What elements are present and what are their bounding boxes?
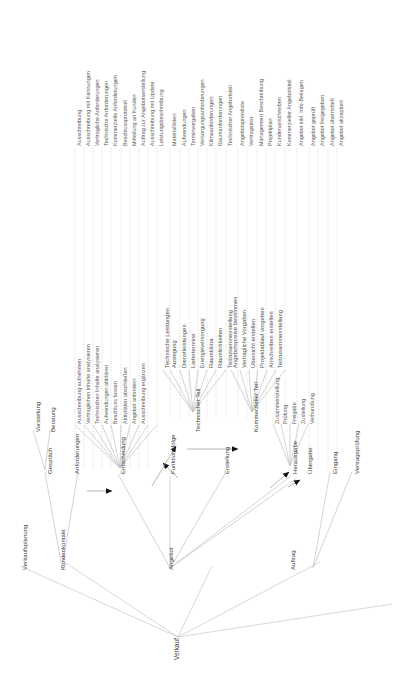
result-label-9: Leistungsbeschreibung (159, 90, 164, 147)
node-vertragspruefung: Vertragsprüfung (354, 431, 360, 474)
node-entscheidung: Entscheidung (120, 437, 126, 474)
sequence-arrows (87, 446, 300, 491)
activity-herausgabe-1: Prüfung (283, 405, 288, 424)
node-beratung: Beratung (50, 407, 56, 432)
activity-kommerzieller_teil-0: Angebotspreise bestimmen (233, 297, 239, 368)
activity-entscheidung-0: Ausschreibung aufnehmen (77, 359, 82, 424)
activity-herausgabe-0: Zusammenstellung (275, 378, 280, 424)
node-funktionsfolge: Funktionsfolge (170, 434, 176, 474)
result-label-14: Klimaanforderungen (209, 97, 214, 146)
activity-technischer_teil-0: Technische Leistungen (165, 308, 171, 368)
activity-technischer_teil-3: Liefertermine (191, 334, 197, 368)
result-label-25: Angebot freigegeben (320, 95, 325, 146)
edges-auftrag-children (313, 472, 352, 568)
result-label-26: Angebot übermittelt (330, 98, 335, 146)
activity-technischer_teil-5: Raumklima (209, 339, 215, 368)
result-label-3: Technische Anforderungen (104, 81, 109, 146)
activity-entscheidung-3: Aufwendungen abklären (104, 365, 109, 424)
activity-kommerzieller_teil-2: Übersicht erstellen (251, 319, 257, 368)
activity-kommerzieller_teil-1: Vertragliche Vorgaben (242, 310, 248, 368)
diagram-canvas: AusschreibungAusschreibung mit Kennungen… (0, 0, 393, 681)
result-label-22: Kommerzieller Angebotsteil (287, 79, 292, 146)
activity-kommerzieller_teil-4: Anschreiben erstellen (269, 311, 275, 368)
node-kommerzieller_teil: Kommerzieller Teil (253, 382, 259, 432)
result-label-1: Ausschreibung mit Kennungen (86, 71, 91, 146)
activity-entscheidung-5: Aktivitäten abschließen (123, 367, 128, 424)
node-gespraech: Gespräch (47, 448, 53, 474)
result-label-4: Kommerzielle Anforderungen (113, 75, 118, 146)
node-angebot: Angebot (168, 547, 174, 570)
result-label-24: Angebot geprüft (311, 107, 316, 146)
node-erstellung: Erstellung (224, 447, 230, 474)
result-label-18: Vertragstext (249, 117, 254, 146)
result-label-21: Kundenanschreiben (277, 97, 282, 146)
activity-technischer_teil-6: Räumlichkeiten (218, 328, 224, 368)
activity-technischer_teil-4: Energieversorgung (200, 318, 206, 368)
activity-herausgabe-2: Freigabe (292, 402, 297, 424)
result-label-27: Angebot akzeptiert (339, 100, 344, 146)
result-label-0: Ausschreibung (77, 110, 82, 146)
result-label-12: Terminvorgaben (191, 107, 196, 146)
result-label-5: Beschlussprotokoll (123, 100, 128, 146)
result-label-11: Aufwendungen (182, 109, 187, 146)
node-herausgabe: Herausgabe (292, 441, 298, 474)
node-auftrag: Auftrag (290, 550, 296, 570)
node-eingang: Eingang (332, 452, 338, 474)
result-label-7: Auftrag zur Angebotserstellung (141, 71, 146, 146)
result-label-6: Mitteilung an Kunden (132, 94, 137, 146)
result-label-23: Angebot inkl. Info-Beilagen (299, 80, 304, 146)
activity-entscheidung-1: Vertraglichen Inhalte analysieren (86, 344, 91, 424)
activity-kommerzieller_teil-3: Projektablauf vorgeben (260, 307, 266, 368)
activity-herausgabe-4: Verhandlung (310, 393, 315, 424)
node-uebergabe: Übergabe (307, 447, 313, 474)
activity-entscheidung-4: Beschluss fassen (113, 381, 118, 424)
activity-entscheidung-2: Technischen Inhalte analysieren (95, 346, 100, 424)
activity-technischer_teil-1: Auslegung (172, 340, 178, 368)
node-technischer_teil: Technischer Teil (195, 389, 201, 432)
result-label-16: Technischer Angebotsteil (228, 85, 233, 146)
result-label-8: Ausschreibung mit Update (150, 82, 155, 146)
result-label-2: Vertragliche Anforderungen (95, 79, 100, 146)
result-label-19: Management Beschreibung (259, 79, 264, 146)
result-label-13: Versorgungsanforderungen (200, 79, 205, 146)
activity-technischer_teil-2: Dienstleistungen (182, 324, 188, 368)
node-kundenkontakt: Kundenkontakt (60, 529, 66, 570)
result-label-15: Raumanforderungen (218, 96, 223, 146)
node-root-verkauf: Verkauf (174, 638, 180, 660)
edges-herausgabe-activities (273, 424, 308, 466)
activity-entscheidung-6: Angebot anfordern (132, 378, 137, 424)
node-anforderungen: Anforderungen (74, 434, 80, 474)
edges-entscheidung-activities (75, 425, 157, 468)
result-label-20: Projektplan (268, 118, 273, 146)
node-verkaufsplanung: Verkaufsplanung (22, 525, 28, 570)
activity-herausgabe-3: Zustellung (301, 399, 306, 424)
result-label-10: Materiallisten (172, 114, 177, 146)
node-vorstellung: Vorstellung (35, 402, 41, 432)
edges-root-children (20, 562, 392, 637)
activity-kommerzieller_teil-5: Teilzusammenstellung (278, 310, 284, 368)
result-label-17: Angebotspreisliste (240, 101, 245, 146)
activity-entscheidung-7: Ausschreibung ergänzen (141, 363, 146, 424)
